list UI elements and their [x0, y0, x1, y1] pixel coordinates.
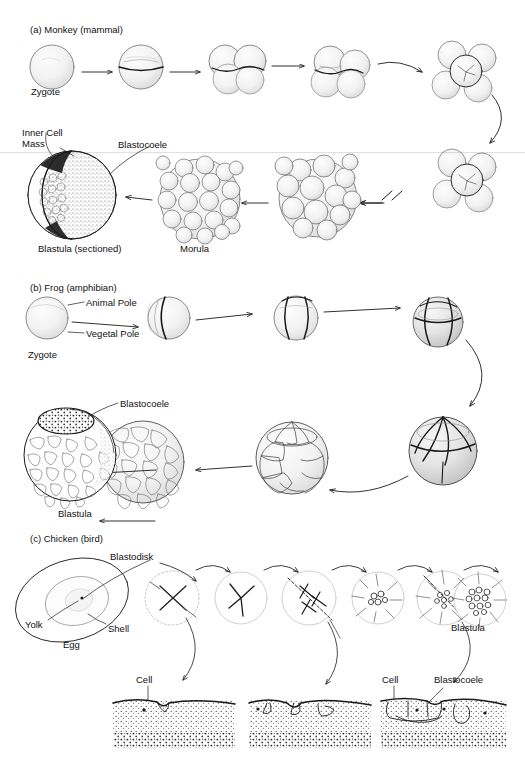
- leader-line: [68, 302, 84, 305]
- chicken-blastula-label: Blastula: [451, 622, 485, 633]
- arrow: [72, 322, 138, 327]
- nucleus: [483, 711, 486, 714]
- section-heading-frog: (b) Frog (amphibian): [30, 282, 117, 293]
- inner-cell-mass-label: Inner Cell Mass: [22, 127, 63, 149]
- cell-label-left: Cell: [136, 674, 152, 685]
- frog-stage-blastula: [24, 408, 116, 509]
- arrow: [324, 308, 400, 312]
- vegetal-pole-label: Vegetal Pole: [86, 328, 139, 339]
- monkey-stage-sixteen-cell: [432, 41, 496, 102]
- arrow: [464, 565, 498, 572]
- chicken-blastodisk-2cell: [145, 571, 199, 625]
- leader-line: [110, 146, 150, 174]
- nucleus: [415, 708, 418, 711]
- monkey-stage-eight-cell: [311, 46, 370, 98]
- monkey-stage-two-cell: [119, 45, 163, 89]
- arrow: [326, 622, 338, 684]
- embryo-artwork: [0, 0, 525, 770]
- egg-label: Egg: [63, 639, 80, 650]
- monkey-stage-four-cell: [209, 45, 266, 94]
- frog-blastula-label: Blastula: [58, 508, 92, 519]
- arrow: [330, 476, 408, 492]
- frog-stage-morula: [256, 422, 328, 494]
- monkey-stage-morula: [156, 156, 243, 244]
- arrow: [196, 466, 252, 470]
- frog-stage-two-cell: [147, 297, 190, 339]
- arrow: [378, 62, 422, 72]
- frog-blastocoele-label: Blastocoele: [120, 398, 169, 409]
- blastodisk-dot: [80, 596, 83, 599]
- yolk-label: Yolk: [25, 619, 43, 630]
- chicken-blastodisk-cluster: [352, 572, 404, 624]
- arrow: [398, 565, 432, 572]
- monkey-stage-cell-cluster: [433, 149, 496, 212]
- morula-label: Morula: [180, 243, 209, 254]
- monkey-blastocoele-label: Blastocoele: [118, 139, 167, 150]
- leader-line: [68, 332, 84, 333]
- frog-stage-four-cell: [274, 296, 318, 340]
- section-heading-chicken: (c) Chicken (bird): [30, 533, 103, 544]
- blastocoele-cavity: [38, 408, 94, 434]
- blastula-sectioned-label: Blastula (sectioned): [38, 243, 121, 254]
- frog-stage-zygote: [26, 297, 68, 339]
- cell-label-right: Cell: [382, 674, 398, 685]
- figure-canvas: (a) Monkey (mammal) Zygote Inner Cell Ma…: [0, 0, 525, 770]
- blastodisk-label: Blastodisk: [110, 551, 153, 562]
- chicken-blastocoele-label: Blastocoele: [434, 674, 483, 685]
- cross-section-late: [381, 686, 506, 748]
- arrow: [332, 565, 366, 572]
- arrow: [264, 565, 298, 572]
- monkey-zygote-label: Zygote: [31, 86, 60, 97]
- chicken-blastodisk-3cell: [215, 572, 267, 624]
- arrow: [466, 340, 482, 406]
- arrow: [183, 618, 195, 680]
- section-heading-monkey: (a) Monkey (mammal): [30, 24, 123, 35]
- shell-label: Shell: [108, 623, 129, 634]
- leader-line: [429, 688, 443, 702]
- frog-stage-sixteen-cell: [409, 417, 477, 485]
- arrow: [490, 95, 502, 143]
- arrow: [196, 565, 230, 572]
- monkey-stage-early-morula: [275, 154, 361, 240]
- nucleus: [142, 708, 145, 711]
- break-marks: [360, 191, 402, 203]
- nucleus: [442, 707, 445, 710]
- monkey-stage-zygote: [30, 45, 74, 89]
- animal-pole-label: Animal Pole: [86, 297, 137, 308]
- monkey-stage-blastula-sectioned: [28, 151, 116, 239]
- arrow: [196, 314, 252, 320]
- nucleus: [256, 707, 259, 710]
- frog-zygote-label: Zygote: [28, 349, 57, 360]
- scan-artifact: [0, 152, 525, 153]
- cross-section-mid: [249, 700, 371, 748]
- frog-stage-eight-cell: [413, 297, 463, 347]
- arrow: [126, 197, 152, 200]
- cross-section-early: [113, 686, 235, 748]
